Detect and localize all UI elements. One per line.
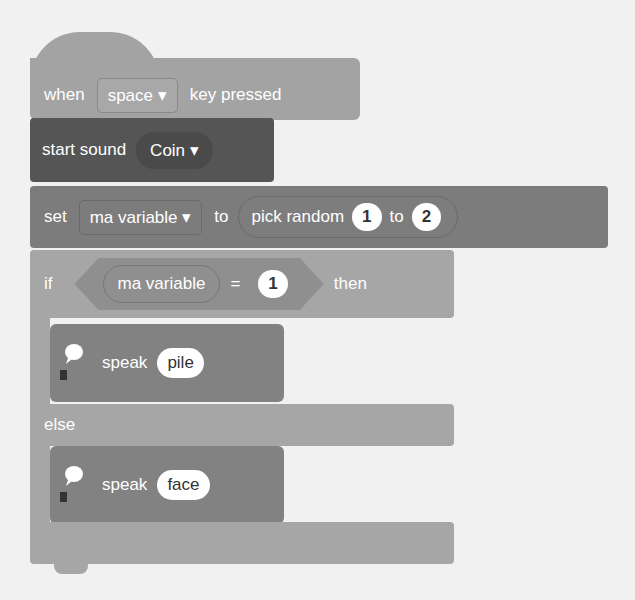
chevron-down-icon: ▾ <box>158 86 167 105</box>
speak-block-1[interactable]: speak pile <box>50 324 284 402</box>
set-label: set <box>44 207 67 227</box>
sound-dropdown[interactable]: Coin ▾ <box>136 132 213 169</box>
speech-bubble-icon <box>60 342 84 387</box>
key-pressed-label: key pressed <box>190 85 282 105</box>
variable-value: ma variable <box>90 208 178 227</box>
pick-random-reporter[interactable]: pick random 1 to 2 <box>238 196 458 238</box>
sound-value: Coin <box>150 141 185 160</box>
if-else-block[interactable]: if ma variable = 1 then <box>30 250 454 318</box>
else-label: else <box>44 415 75 435</box>
if-arm <box>30 316 50 408</box>
else-section: else <box>30 404 454 446</box>
chevron-down-icon: ▾ <box>182 208 191 227</box>
set-variable-block[interactable]: set ma variable ▾ to pick random 1 to 2 <box>30 186 608 248</box>
speak-block-2[interactable]: speak face <box>50 446 284 524</box>
pick-random-label: pick random <box>251 207 344 227</box>
random-min-input[interactable]: 1 <box>352 203 381 231</box>
speech-bubble-icon <box>60 464 84 509</box>
to-label: to <box>214 207 228 227</box>
key-value: space <box>108 86 153 105</box>
variable-dropdown[interactable]: ma variable ▾ <box>79 200 203 235</box>
variable-reporter[interactable]: ma variable <box>103 265 221 303</box>
random-max-input[interactable]: 2 <box>412 203 441 231</box>
bottom-notch <box>54 564 88 574</box>
key-dropdown[interactable]: space ▾ <box>97 78 178 113</box>
speak-label: speak <box>102 353 147 373</box>
if-label: if <box>44 274 53 294</box>
else-arm <box>30 444 50 524</box>
if-else-end <box>30 522 454 564</box>
random-to-label: to <box>390 207 404 227</box>
chevron-down-icon: ▾ <box>190 141 199 160</box>
when-label: when <box>44 85 85 105</box>
compare-value-input[interactable]: 1 <box>258 270 287 298</box>
speak-text-input[interactable]: pile <box>157 348 203 378</box>
speak-text-input[interactable]: face <box>157 470 209 500</box>
speak-label: speak <box>102 475 147 495</box>
start-sound-block[interactable]: start sound Coin ▾ <box>30 118 274 182</box>
equals-condition[interactable]: ma variable = 1 <box>75 258 324 310</box>
when-key-pressed-block[interactable]: when space ▾ key pressed <box>30 58 360 120</box>
equals-operator: = <box>230 274 240 294</box>
then-label: then <box>334 274 367 294</box>
start-sound-label: start sound <box>42 140 126 160</box>
